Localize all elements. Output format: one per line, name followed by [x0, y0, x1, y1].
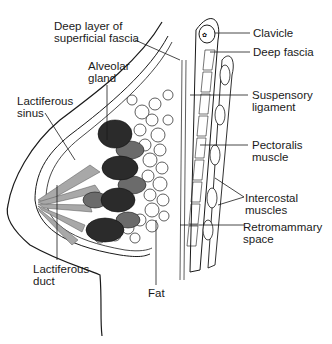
label-clavicle: Clavicle [253, 27, 293, 39]
label-deep-fascia: Deep fascia [253, 46, 314, 58]
label-fat: Fat [148, 287, 165, 299]
clavicle-marrow: ✿ [202, 32, 207, 38]
lobules-mid [83, 141, 146, 228]
label-retromammary-space: Retromammary space [243, 221, 322, 245]
chest-wall-line [180, 60, 182, 280]
chest-wall-line-2 [184, 60, 186, 280]
label-alveolar-gland: Alveolar gland [88, 60, 130, 84]
label-lactiferous-duct: Lactiferous duct [33, 263, 89, 287]
label-intercostal-muscles: Intercostal muscles [245, 192, 298, 216]
label-suspensory-ligament: Suspensory ligament [252, 89, 313, 113]
label-lactiferous-sinus: Lactiferous sinus [17, 95, 73, 119]
label-deep-layer-fascia: Deep layer of superficial fascia [54, 20, 139, 44]
label-pectoralis-muscle: Pectoralis muscle [252, 139, 303, 163]
